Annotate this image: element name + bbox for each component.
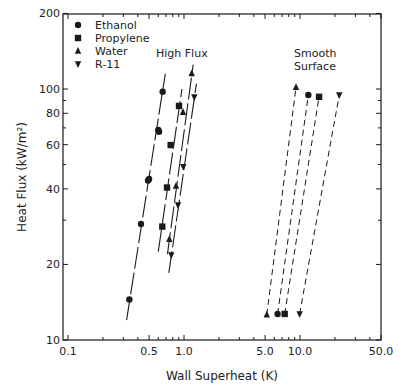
square-marker — [176, 103, 182, 109]
triangle-up-marker — [173, 182, 179, 189]
y-tick-label: 200 — [39, 7, 60, 20]
triangle-down-marker — [180, 164, 186, 171]
triangle-up-marker — [166, 235, 172, 242]
data-series — [126, 65, 342, 320]
series-ethanol-smooth — [274, 92, 311, 317]
legend-item-r-11: R-11 — [75, 58, 120, 71]
triangle-down-icon — [75, 61, 81, 68]
x-tick-label: 50.0 — [369, 345, 394, 358]
triangle-up-marker — [293, 83, 299, 90]
triangle-down-marker — [336, 92, 342, 99]
series-ethanol-high-flux — [126, 74, 166, 320]
triangle-down-marker — [296, 311, 302, 318]
square-marker — [159, 223, 165, 229]
legend: EthanolPropyleneWaterR-11 — [75, 19, 150, 71]
circle-marker — [126, 296, 132, 302]
circle-marker — [305, 92, 311, 98]
legend-label: Ethanol — [95, 19, 137, 32]
triangle-down-marker — [168, 252, 174, 259]
circle-marker — [146, 176, 152, 182]
square-marker — [316, 94, 322, 100]
y-axis-label: Heat Flux (kW/m²) — [15, 122, 29, 232]
y-tick-label: 100 — [39, 83, 60, 96]
x-axis-label: Wall Superheat (K) — [166, 369, 278, 383]
x-tick-label: 0.5 — [140, 345, 158, 358]
series-water-high-flux — [166, 65, 195, 254]
y-tick-label: 20 — [46, 258, 60, 271]
x-tick-label: 1.0 — [175, 345, 193, 358]
legend-label: Propylene — [95, 32, 150, 45]
triangle-down-marker — [175, 202, 181, 209]
square-marker — [281, 311, 287, 317]
annotation-high-flux: High Flux — [156, 47, 208, 60]
circle-marker — [159, 89, 165, 95]
x-tick-label: 10.0 — [288, 345, 313, 358]
y-tick-label: 60 — [46, 139, 60, 152]
annotation-smooth: Smooth — [294, 47, 336, 60]
dashed-line — [267, 87, 296, 315]
triangle-down-marker — [191, 94, 197, 101]
legend-label: Water — [95, 45, 128, 58]
legend-label: R-11 — [95, 58, 120, 71]
series-r-11-smooth — [296, 92, 342, 318]
circle-marker — [156, 129, 162, 135]
x-tick-label: 5.0 — [256, 345, 274, 358]
fit-line — [127, 74, 166, 320]
y-tick-label: 40 — [46, 183, 60, 196]
y-tick-label: 80 — [46, 107, 60, 120]
legend-item-ethanol: Ethanol — [75, 19, 137, 32]
square-marker — [168, 142, 174, 148]
dashed-line — [278, 95, 309, 314]
legend-item-water: Water — [75, 45, 128, 58]
circle-icon — [75, 22, 81, 28]
circle-marker — [274, 311, 280, 317]
dashed-line — [300, 95, 340, 314]
triangle-up-icon — [75, 47, 81, 54]
dashed-line — [285, 97, 319, 314]
circle-marker — [138, 221, 144, 227]
triangle-up-marker — [188, 69, 194, 76]
x-tick-label: 0.1 — [59, 345, 77, 358]
y-tick-label: 10 — [46, 334, 60, 347]
square-marker — [164, 184, 170, 190]
series-propylene-smooth — [281, 94, 322, 318]
square-icon — [75, 35, 81, 41]
legend-item-propylene: Propylene — [75, 32, 150, 45]
annotation-surface: Surface — [294, 60, 336, 73]
triangle-up-marker — [264, 311, 270, 318]
heat-flux-chart: 0.10.51.05.010.050.0 1020406080100200 Et… — [0, 0, 403, 391]
